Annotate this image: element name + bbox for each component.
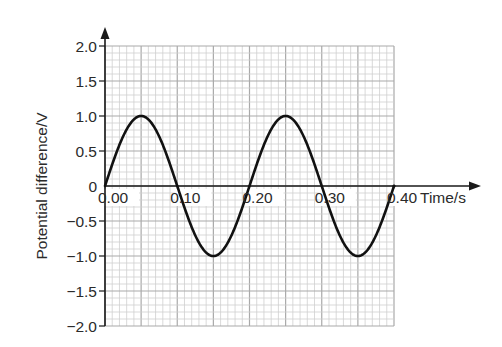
- axes: [99, 27, 481, 326]
- x-tick-label: 0.40: [387, 189, 418, 206]
- x-axis-arrow-icon: [469, 182, 481, 191]
- y-tick-label: 0: [88, 178, 97, 195]
- y-tick-label: 1.5: [75, 73, 97, 90]
- y-tick-label: 1.0: [75, 108, 97, 125]
- y-tick-label: −2.0: [66, 318, 97, 335]
- y-tick-label: 0.5: [75, 143, 97, 160]
- x-tick-label: 0.20: [243, 189, 274, 206]
- x-tick-label: 0.00: [98, 189, 129, 206]
- y-tick-label: −1.5: [66, 283, 97, 300]
- sine-wave-chart: 2.01.51.00.50−0.5−1.0−1.5−2.0 0.000.100.…: [0, 0, 502, 347]
- x-tick-label: 0.30: [315, 189, 346, 206]
- y-tick-label: −1.0: [66, 248, 97, 265]
- y-tick-label: 2.0: [75, 38, 97, 55]
- x-tick-label: 0.10: [170, 189, 201, 206]
- y-tick-label: −0.5: [66, 213, 97, 230]
- x-tick-labels: 0.000.100.200.300.40: [98, 189, 418, 206]
- y-axis-title: Potential difference/V: [33, 112, 50, 260]
- y-tick-labels: 2.01.51.00.50−0.5−1.0−1.5−2.0: [66, 38, 97, 335]
- y-axis-arrow-icon: [101, 27, 110, 39]
- x-axis-title: Time/s: [420, 189, 466, 206]
